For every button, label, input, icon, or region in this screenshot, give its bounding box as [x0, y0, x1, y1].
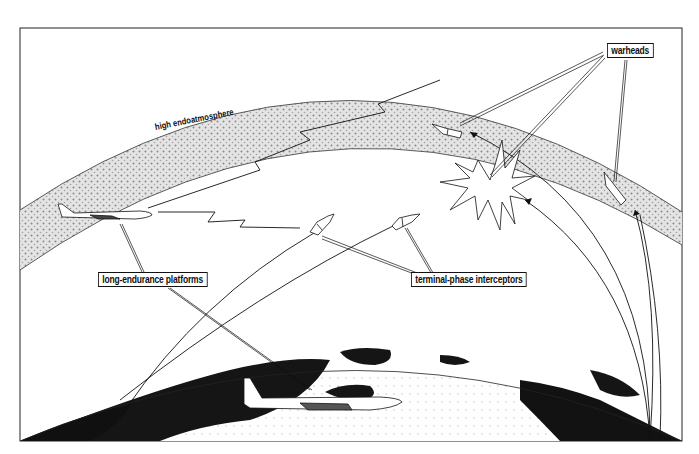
long-endurance-platforms-label: long-endurance platforms: [98, 272, 207, 287]
warheads-label: warheads: [607, 43, 653, 58]
terminal-phase-interceptors-label: terminal-phase interceptors: [411, 272, 527, 287]
diagram-canvas: high endoatmosphere warheads long-endura…: [0, 0, 699, 454]
diagram-illustration: [0, 0, 699, 454]
